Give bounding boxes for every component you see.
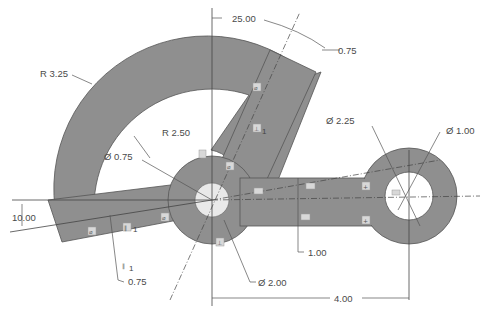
- svg-text:⊥: ⊥: [217, 239, 222, 246]
- svg-text:+: +: [363, 183, 368, 190]
- svg-text:⌀: ⌀: [227, 163, 231, 170]
- dim-hub-hole-dia[interactable]: Ø 0.75: [104, 151, 133, 162]
- dim-right-hole-dia[interactable]: Ø 1.00: [446, 125, 475, 136]
- r250-leader: [134, 136, 150, 158]
- dim-outer-radius[interactable]: R 3.25: [40, 68, 68, 79]
- sketch-profile[interactable]: [48, 36, 457, 244]
- svg-text:⊥: ⊥: [254, 125, 259, 132]
- dim-left-arm-width[interactable]: 0.75: [128, 276, 147, 287]
- svg-text:⌀: ⌀: [162, 214, 166, 221]
- dim-angle-top[interactable]: 25.00: [232, 13, 256, 24]
- parallel-icon[interactable]: ∥: [122, 262, 125, 270]
- tangent-icon[interactable]: ⌀: [253, 83, 261, 91]
- equal-icon[interactable]: [306, 183, 315, 189]
- svg-text:⌀: ⌀: [254, 84, 258, 91]
- dim-right-boss-dia[interactable]: Ø 2.25: [326, 115, 355, 126]
- r325-leader: [72, 75, 92, 84]
- perpendicular-count: 1: [262, 127, 267, 136]
- coincident-icon[interactable]: +: [362, 216, 370, 224]
- svg-text:⌀: ⌀: [89, 228, 93, 235]
- tangent-icon[interactable]: ⌀: [226, 162, 234, 170]
- vertical-constraint-icon[interactable]: [199, 150, 206, 158]
- equal-icon[interactable]: [392, 190, 400, 195]
- cad-sketch-canvas[interactable]: 25.00 0.75 R 3.25 R 2.50 Ø 0.75 Ø 2.25 Ø…: [0, 0, 488, 320]
- parallel-count-lower: 1: [129, 264, 134, 273]
- perpendicular-icon[interactable]: ⊥: [253, 124, 261, 132]
- parallel-icon[interactable]: ∥: [123, 223, 131, 232]
- coincident-icon[interactable]: +: [362, 182, 370, 190]
- dim-hub-dia[interactable]: Ø 2.00: [258, 277, 287, 288]
- tangent-icon[interactable]: ⌀: [161, 213, 169, 221]
- svg-text:∥: ∥: [122, 262, 125, 270]
- dim-left-angle[interactable]: 10.00: [12, 212, 36, 223]
- dim-center-distance[interactable]: 4.00: [334, 293, 353, 304]
- dim-inner-radius[interactable]: R 2.50: [162, 127, 190, 138]
- equal-icon[interactable]: [254, 188, 263, 194]
- svg-text:∥: ∥: [124, 224, 127, 232]
- svg-text:+: +: [363, 217, 368, 224]
- dim-slot-width[interactable]: 1.00: [308, 247, 327, 258]
- dim-arm-width[interactable]: 0.75: [338, 45, 357, 56]
- equal-icon[interactable]: [301, 214, 310, 220]
- perpendicular-icon[interactable]: ⊥: [216, 238, 224, 246]
- tangent-icon[interactable]: ⌀: [88, 227, 96, 235]
- parallel-count: 1: [133, 225, 138, 234]
